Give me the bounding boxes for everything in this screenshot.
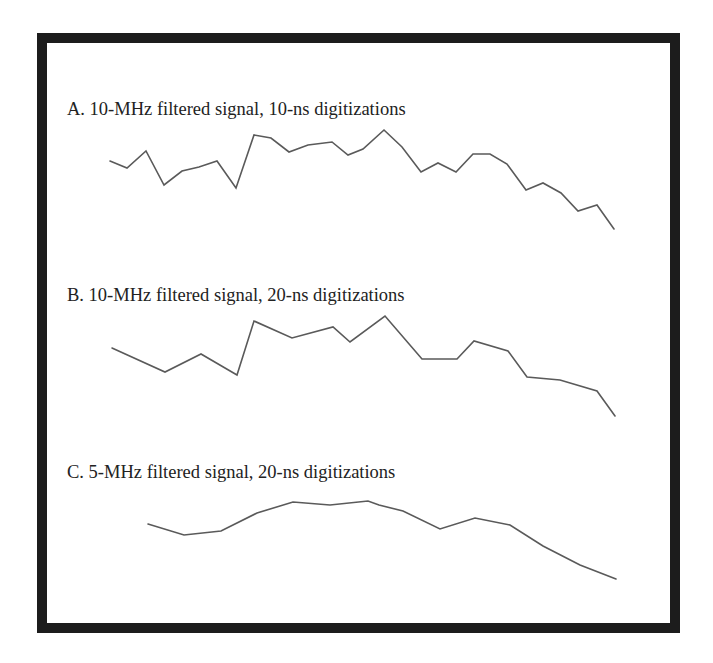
trace-b-line bbox=[112, 316, 615, 416]
signal-traces bbox=[0, 0, 713, 663]
trace-c-line bbox=[148, 501, 616, 579]
trace-a-line bbox=[110, 130, 614, 229]
